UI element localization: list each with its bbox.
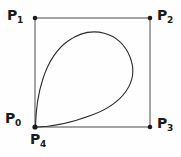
point-label-p4-subscript: 4 bbox=[40, 139, 46, 149]
control-point-dot-p0p4 bbox=[32, 124, 37, 129]
point-label-p2: P2 bbox=[157, 8, 173, 22]
point-label-p2-base: P bbox=[157, 7, 167, 23]
point-label-p4-base: P bbox=[30, 131, 40, 147]
point-label-p1-base: P bbox=[7, 7, 17, 23]
point-label-p3: P3 bbox=[157, 116, 173, 130]
point-label-p0-base: P bbox=[5, 110, 15, 126]
control-point-dot-p1 bbox=[33, 16, 38, 21]
bezier-figure: P1 P2 P0 P3 P4 bbox=[0, 0, 181, 157]
point-label-p3-subscript: 3 bbox=[167, 123, 173, 133]
control-point-dot-p3 bbox=[148, 125, 153, 130]
point-label-p4: P4 bbox=[30, 132, 46, 146]
point-label-p2-subscript: 2 bbox=[167, 15, 173, 25]
point-label-p0-subscript: 0 bbox=[15, 118, 21, 128]
control-point-dot-p2 bbox=[148, 16, 153, 21]
point-label-p0: P0 bbox=[5, 111, 21, 125]
bezier-curve bbox=[36, 32, 133, 127]
figure-canvas bbox=[0, 0, 181, 157]
point-label-p1: P1 bbox=[7, 8, 23, 22]
point-label-p1-subscript: 1 bbox=[17, 15, 23, 25]
point-label-p3-base: P bbox=[157, 115, 167, 131]
